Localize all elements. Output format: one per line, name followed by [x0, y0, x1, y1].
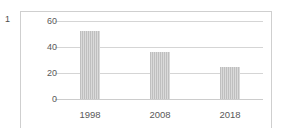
bar-chart-plot-area: 0204060199820082018	[21, 12, 271, 128]
y-axis-tick-label: 20	[31, 69, 57, 78]
y-axis-tick-label: 40	[31, 43, 57, 52]
x-axis-tick-label: 2008	[130, 109, 190, 120]
x-axis-tick-label: 1998	[60, 109, 120, 120]
x-axis-tick-label: 2018	[200, 109, 260, 120]
figure-number-label: 1	[5, 14, 10, 24]
y-axis-tick-label: 60	[31, 17, 57, 26]
gridline-60	[55, 21, 263, 22]
gridline-0	[55, 99, 263, 100]
bar-2008	[150, 52, 170, 99]
y-axis-tick-label: 0	[31, 95, 57, 104]
bar-1998	[80, 31, 100, 99]
bar-2018	[220, 67, 240, 100]
chart-frame: 0204060199820082018	[20, 11, 272, 128]
figure-container: 1 0204060199820082018	[0, 0, 282, 128]
